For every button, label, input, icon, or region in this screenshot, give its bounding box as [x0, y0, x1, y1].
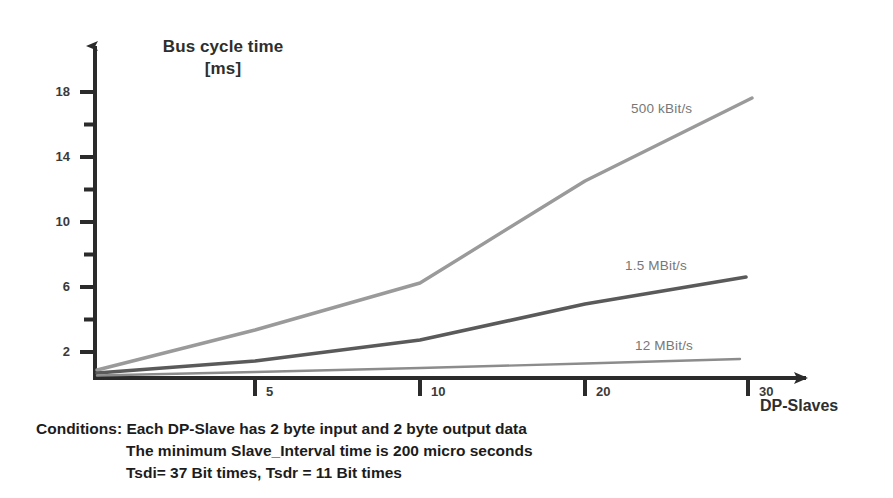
series-label-12mbits: 12 MBit/s — [635, 338, 693, 353]
conditions-row-2: The minimum Slave_Interval time is 200 m… — [36, 440, 533, 462]
y-tick-label-18: 18 — [36, 84, 70, 99]
x-axis-title: DP-Slaves — [760, 397, 838, 415]
x-tick-label-10: 10 — [431, 384, 465, 399]
series-line-1-5mbits — [97, 277, 746, 373]
series-label-1-5mbits: 1.5 MBit/s — [625, 258, 687, 273]
conditions-block: Conditions: Each DP-Slave has 2 byte inp… — [36, 418, 533, 484]
conditions-line-2: The minimum Slave_Interval time is 200 m… — [126, 442, 533, 459]
conditions-line-3: Tsdi= 37 Bit times, Tsdr = 11 Bit times — [126, 464, 402, 481]
y-tick-label-14: 14 — [36, 149, 70, 164]
x-axis-ticks — [255, 378, 748, 396]
y-tick-label-2: 2 — [36, 344, 70, 359]
chart-page: Bus cycle time [ms] — [0, 0, 893, 498]
conditions-row-1: Conditions: Each DP-Slave has 2 byte inp… — [36, 418, 533, 440]
x-tick-label-20: 20 — [596, 384, 630, 399]
y-tick-label-10: 10 — [36, 214, 70, 229]
series-line-500kbits — [97, 98, 752, 370]
conditions-lead: Conditions: — [36, 420, 122, 437]
conditions-line-1: Each DP-Slave has 2 byte input and 2 byt… — [126, 420, 527, 437]
series-label-500kbits: 500 kBit/s — [631, 101, 692, 116]
x-tick-label-5: 5 — [266, 384, 300, 399]
y-axis-major-ticks — [80, 92, 95, 352]
y-tick-label-6: 6 — [36, 279, 70, 294]
conditions-row-3: Tsdi= 37 Bit times, Tsdr = 11 Bit times — [36, 462, 533, 484]
